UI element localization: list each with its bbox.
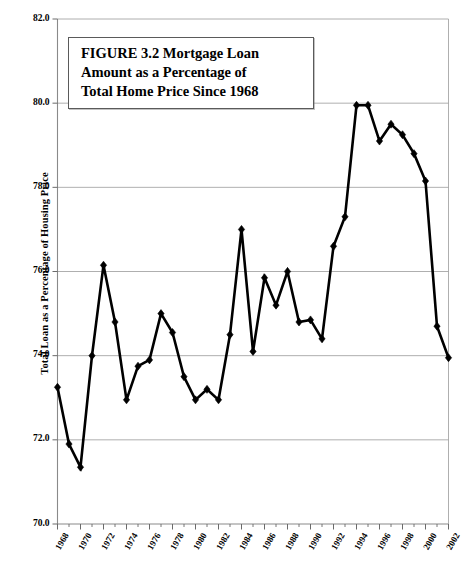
- figure-container: Total Loan as a Percentage of Housing Pr…: [0, 0, 466, 580]
- x-axis-minor-ticks: [58, 524, 449, 530]
- data-point-marker: [353, 101, 359, 109]
- data-series-line: [58, 105, 449, 467]
- data-point-marker: [227, 331, 233, 339]
- data-point-marker: [250, 347, 256, 355]
- data-point-marker: [238, 225, 244, 233]
- data-series-markers: [54, 101, 451, 471]
- figure-title-line-1: FIGURE 3.2 Mortgage Loan: [81, 44, 303, 63]
- data-point-marker: [89, 352, 95, 360]
- data-point-marker: [296, 318, 302, 326]
- figure-title-line-2: Amount as a Percentage of: [81, 63, 303, 82]
- data-point-marker: [112, 318, 118, 326]
- figure-title-box: FIGURE 3.2 Mortgage Loan Amount as a Per…: [68, 37, 314, 109]
- figure-title-line-3: Total Home Price Since 1968: [81, 82, 303, 101]
- data-point-marker: [54, 383, 60, 391]
- data-point-marker: [100, 261, 106, 269]
- data-point-marker: [146, 356, 152, 364]
- axis-major-ticks: [53, 19, 58, 524]
